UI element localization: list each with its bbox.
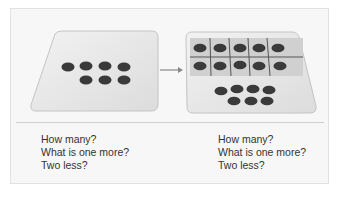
question-how-many: How many? [218,133,306,146]
question-two-less: Two less? [218,159,306,172]
question-how-many: How many? [41,133,129,146]
arrow-right-icon [160,67,183,73]
left-card [31,31,158,111]
question-one-more: What is one more? [41,146,129,159]
question-one-more: What is one more? [218,146,306,159]
ten-frame [190,38,303,76]
right-card [186,32,316,113]
right-questions: How many? What is one more? Two less? [218,133,306,172]
left-questions: How many? What is one more? Two less? [41,133,129,172]
divider [16,122,324,123]
question-two-less: Two less? [41,159,129,172]
